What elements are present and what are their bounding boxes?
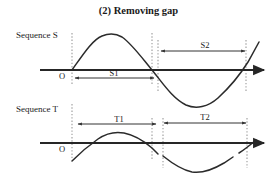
origin-label-s: O: [59, 71, 65, 81]
sequence-s-label: Sequence S: [16, 30, 58, 40]
span-label-t2: T2: [200, 112, 209, 122]
page-title: (2) Removing gap: [99, 5, 178, 17]
span-label-t1: T1: [114, 114, 123, 124]
sequence-t-label: Sequence T: [16, 104, 59, 114]
span-t2: T2: [164, 112, 246, 123]
removing-gap-figure: (2) Removing gap Sequence S O S1 S2 Seq: [0, 0, 277, 182]
sequence-t-group: Sequence T O T1 T2: [16, 104, 264, 172]
span-label-s1: S1: [110, 68, 119, 78]
span-label-s2: S2: [201, 40, 210, 50]
origin-label-t: O: [59, 144, 65, 154]
span-s2: S2: [161, 40, 245, 51]
sequence-t-guides: [72, 104, 247, 168]
waveform-t: [72, 133, 256, 173]
sequence-s-guides: [72, 33, 246, 92]
span-t1: T1: [78, 114, 156, 124]
sequence-s-group: Sequence S O S1 S2: [16, 30, 264, 107]
